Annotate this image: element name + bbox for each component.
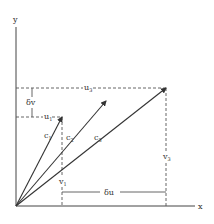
v1-label: v1 — [58, 177, 67, 187]
c3-label: c3 — [94, 133, 102, 143]
velocity-vector-diagram: y x δv δu c1 c2 c3 u1 u3 v1 v3 — [0, 0, 214, 224]
vector-c2 — [16, 101, 106, 206]
u1-label: u1 — [44, 112, 52, 122]
delta-u-label: δu — [104, 188, 114, 197]
c1-label: c1 — [44, 131, 52, 141]
delta-v-label: δv — [26, 98, 36, 107]
x-axis-label: x — [198, 202, 203, 211]
u3-label: u3 — [84, 83, 92, 93]
vector-c3 — [16, 88, 166, 206]
v3-label: v3 — [162, 152, 171, 162]
y-axis-label: y — [12, 15, 18, 24]
c2-label: c2 — [66, 133, 74, 143]
vector-c1 — [16, 117, 62, 206]
